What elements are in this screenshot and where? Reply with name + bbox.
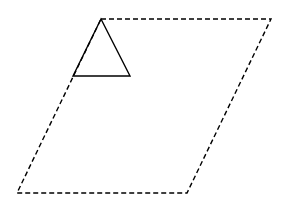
- diagram-canvas: [0, 0, 282, 203]
- background: [0, 0, 282, 203]
